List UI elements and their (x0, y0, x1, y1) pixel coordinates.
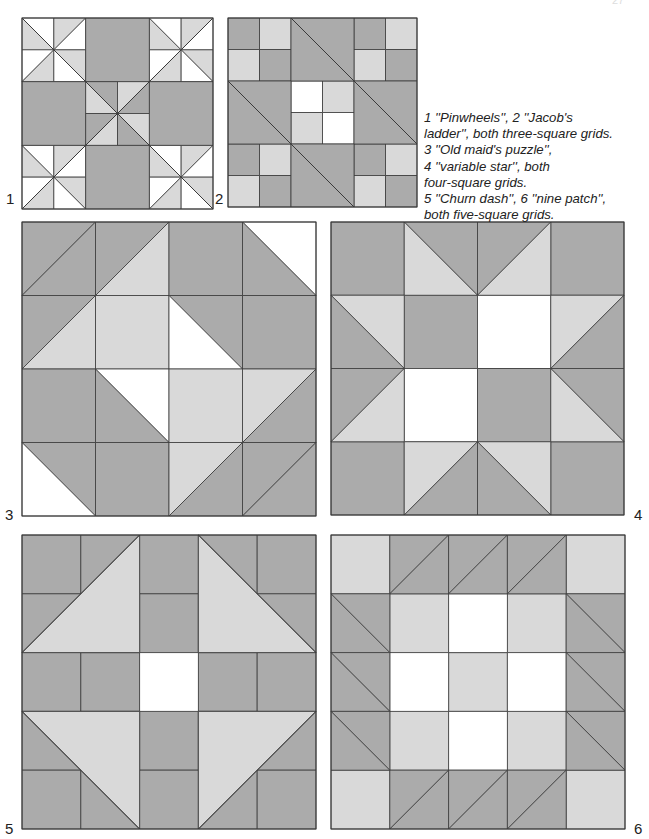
quilt-patch (331, 442, 404, 515)
quilt-diagram (22, 18, 213, 209)
quilt-patch (331, 535, 390, 594)
quilt-patch (386, 50, 418, 82)
figure-caption: 1 ''Pinwheels'', 2 ''Jacob's ladder'', b… (424, 110, 649, 223)
quilt-patch (228, 18, 260, 50)
quilt-block-churn-dash (22, 535, 316, 829)
quilt-block-nine-patch (331, 535, 625, 829)
quilt-diagram (228, 18, 417, 207)
quilt-patch (449, 653, 508, 712)
quilt-patch (354, 144, 386, 176)
quilt-patch (228, 144, 260, 176)
quilt-patch (390, 711, 449, 770)
caption-line: both five-square grids. (424, 207, 649, 223)
quilt-patch (140, 535, 199, 594)
block-number-label: 4 (634, 506, 642, 523)
quilt-patch (140, 770, 199, 829)
quilt-patch (354, 176, 386, 208)
quilt-patch (386, 18, 418, 50)
quilt-patch (22, 653, 81, 712)
quilt-patch (449, 594, 508, 653)
quilt-patch (507, 711, 566, 770)
quilt-patch (449, 711, 508, 770)
quilt-patch (86, 145, 150, 209)
quilt-patch (354, 50, 386, 82)
quilt-block-pinwheels (22, 18, 213, 209)
block-number-label: 6 (634, 820, 642, 837)
quilt-patch (22, 535, 81, 594)
quilt-block-jacob-s-ladder (228, 18, 417, 207)
quilt-diagram (22, 535, 316, 829)
quilt-patch (140, 594, 199, 653)
quilt-patch (291, 81, 323, 113)
quilt-patch (228, 176, 260, 208)
quilt-patch (291, 113, 323, 145)
quilt-patch (22, 82, 86, 146)
quilt-patch (354, 18, 386, 50)
quilt-block-variable-star (331, 222, 624, 515)
quilt-diagram (22, 222, 316, 516)
quilt-patch (198, 653, 257, 712)
caption-line: 5 ''Churn dash'', 6 ''nine patch'', (424, 191, 649, 207)
quilt-block-old-maid-s-puzzle (22, 222, 316, 516)
quilt-patch (551, 442, 624, 515)
quilt-diagram (331, 222, 624, 515)
quilt-patch (386, 176, 418, 208)
quilt-patch (260, 50, 292, 82)
caption-line: four-square grids. (424, 175, 649, 191)
quilt-patch (96, 443, 170, 517)
quilt-patch (507, 594, 566, 653)
quilt-patch (404, 369, 477, 442)
quilt-patch (169, 222, 243, 296)
quilt-patch (404, 295, 477, 368)
quilt-patch (323, 113, 355, 145)
caption-line: 4 ''variable star'', both (424, 159, 649, 175)
quilt-patch (478, 295, 551, 368)
caption-line: 3 ''Old maid's puzzle'', (424, 142, 649, 158)
block-number-label: 2 (215, 190, 223, 207)
quilt-patch (257, 653, 316, 712)
quilt-patch (507, 653, 566, 712)
quilt-patch (257, 770, 316, 829)
quilt-patch (551, 222, 624, 295)
quilt-patch (22, 770, 81, 829)
quilt-diagram (331, 535, 625, 829)
quilt-patch (243, 296, 317, 370)
block-number-label: 3 (5, 506, 13, 523)
quilt-patch (260, 176, 292, 208)
block-number-label: 1 (6, 190, 14, 207)
page-number: 27 (612, 0, 624, 6)
quilt-patch (140, 653, 199, 712)
quilt-patch (331, 770, 390, 829)
quilt-patch (478, 369, 551, 442)
quilt-patch (566, 770, 625, 829)
quilt-patch (331, 222, 404, 295)
quilt-patch (323, 81, 355, 113)
quilt-patch (22, 369, 96, 443)
quilt-patch (390, 594, 449, 653)
quilt-patch (81, 653, 140, 712)
quilt-patch (149, 82, 213, 146)
caption-line: ladder'', both three-square grids. (424, 126, 649, 142)
caption-line: 1 ''Pinwheels'', 2 ''Jacob's (424, 110, 649, 126)
quilt-patch (96, 296, 170, 370)
quilt-patch (566, 535, 625, 594)
quilt-patch (257, 535, 316, 594)
quilt-patch (390, 653, 449, 712)
quilt-patch (140, 711, 199, 770)
quilt-patch (260, 18, 292, 50)
block-number-label: 5 (5, 820, 13, 837)
quilt-patch (228, 50, 260, 82)
quilt-patch (169, 369, 243, 443)
quilt-patch (260, 144, 292, 176)
quilt-patch (386, 144, 418, 176)
quilt-patch (86, 18, 150, 82)
